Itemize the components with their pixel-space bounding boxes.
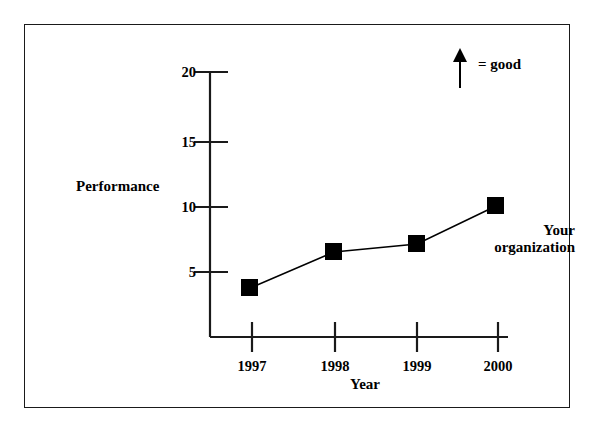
data-point-2000	[487, 197, 504, 214]
x-axis-title: Year	[350, 376, 380, 393]
y-tick-label-10: 10	[182, 199, 197, 215]
data-point-1997	[241, 279, 258, 296]
chart-screenshot: = good 20 15 10 5 1997 1998 1999 2000 Pe…	[0, 0, 594, 430]
x-tick-label-1998: 1998	[321, 358, 350, 374]
x-tick-label-2000: 2000	[484, 358, 513, 374]
series-callout-line-1: Your	[494, 222, 575, 239]
data-line-your-organization	[250, 206, 496, 288]
y-tick-label-5: 5	[189, 264, 196, 280]
series-callout-line-2: organization	[494, 239, 575, 256]
legend-good-label: = good	[478, 56, 521, 73]
x-tick-label-1997: 1997	[238, 358, 267, 374]
y-axis-title: Performance	[76, 178, 159, 195]
y-tick-label-20: 20	[182, 64, 197, 80]
y-tick-label-15: 15	[182, 134, 197, 150]
x-tick-label-1999: 1999	[403, 358, 432, 374]
series-callout-label: Your organization	[494, 222, 575, 256]
data-point-1998	[325, 243, 342, 260]
data-point-1999	[408, 235, 425, 252]
up-arrow-icon	[452, 48, 468, 88]
